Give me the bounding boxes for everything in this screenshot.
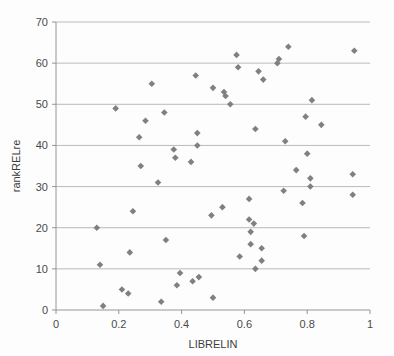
data-point (137, 163, 144, 170)
data-point (318, 122, 325, 129)
data-point (194, 142, 201, 149)
x-tick-marks (56, 310, 370, 314)
data-point (155, 179, 162, 186)
data-point (196, 274, 203, 281)
x-tick-labels: 00.20.40.60.81 (53, 318, 373, 330)
gridlines-group (56, 22, 370, 269)
x-tick-label: 0.4 (174, 318, 189, 330)
data-point (148, 80, 155, 87)
data-point (255, 68, 262, 75)
data-point (170, 146, 177, 153)
data-point (177, 270, 184, 277)
x-tick-label: 1 (367, 318, 373, 330)
y-tick-label: 50 (36, 98, 48, 110)
data-point (136, 134, 143, 141)
x-axis-title: LIBRELIN (189, 338, 238, 350)
data-point (282, 138, 289, 145)
data-point (174, 282, 181, 289)
data-point (94, 224, 101, 231)
data-point (307, 183, 314, 190)
y-tick-label: 20 (36, 222, 48, 234)
data-point (246, 196, 253, 203)
x-tick-label: 0.6 (237, 318, 252, 330)
x-tick-label: 0.8 (300, 318, 315, 330)
data-point (251, 220, 258, 227)
data-point (307, 175, 314, 182)
data-point (304, 150, 311, 157)
data-point (299, 200, 306, 207)
data-point (161, 109, 168, 116)
data-point (293, 167, 300, 174)
data-point (258, 245, 265, 252)
plot-canvas: 010203040506070 00.20.40.60.81 LIBRELIN … (0, 0, 394, 356)
y-axis-title: rankRELre (10, 140, 22, 193)
data-point (210, 85, 217, 92)
y-tick-label: 70 (36, 16, 48, 28)
data-point (280, 187, 287, 194)
y-tick-label: 10 (36, 263, 48, 275)
data-point (246, 216, 253, 223)
data-point (210, 294, 217, 301)
data-point (285, 43, 292, 50)
data-point (260, 76, 267, 83)
data-point (252, 266, 259, 273)
data-point (172, 154, 179, 161)
data-point (252, 126, 259, 133)
data-point (247, 241, 254, 248)
data-point (227, 101, 234, 108)
data-point (349, 171, 356, 178)
y-tick-label: 40 (36, 139, 48, 151)
data-point (309, 97, 316, 104)
data-point (125, 290, 132, 297)
x-tick-label: 0 (53, 318, 59, 330)
data-point (258, 257, 265, 264)
y-tick-labels: 010203040506070 (36, 16, 48, 316)
data-point (236, 253, 243, 260)
data-point (219, 204, 226, 211)
data-point (349, 192, 356, 199)
data-point (112, 105, 119, 112)
scatter-chart: 010203040506070 00.20.40.60.81 LIBRELIN … (0, 0, 394, 356)
data-point (163, 237, 170, 244)
data-point (233, 52, 240, 59)
x-tick-label: 0.2 (111, 318, 126, 330)
data-point (119, 286, 126, 293)
data-point (97, 261, 104, 268)
y-tick-label: 30 (36, 181, 48, 193)
axes-group (56, 22, 370, 310)
data-point (126, 249, 133, 256)
data-point (142, 117, 149, 124)
y-tick-marks (52, 22, 56, 310)
data-point (302, 113, 309, 120)
data-point (301, 233, 308, 240)
data-point (188, 159, 195, 166)
data-point (208, 212, 215, 219)
data-point (194, 130, 201, 137)
data-point (158, 298, 165, 305)
data-point (130, 208, 137, 215)
data-point (100, 303, 107, 310)
data-point (192, 72, 199, 79)
data-point (351, 48, 358, 55)
data-points-group (94, 43, 358, 309)
y-tick-label: 60 (36, 57, 48, 69)
data-point (247, 229, 254, 236)
data-point (235, 64, 242, 71)
data-point (189, 278, 196, 285)
y-tick-label: 0 (42, 304, 48, 316)
